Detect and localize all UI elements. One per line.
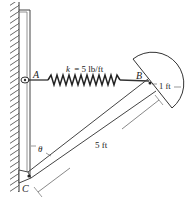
spring-k-value: = 5 lb/ft xyxy=(74,64,104,74)
spring-k-symbol: k xyxy=(66,64,71,74)
support-c xyxy=(19,170,31,183)
label-c: C xyxy=(22,183,29,194)
vertical-rod xyxy=(19,10,30,176)
label-1ft: 1 ft xyxy=(159,81,171,91)
pin-b xyxy=(149,82,152,85)
label-theta: θ xyxy=(38,144,43,154)
label-b: B xyxy=(136,70,142,81)
wall xyxy=(10,2,19,192)
collar-a xyxy=(21,77,29,83)
spring-rod-right xyxy=(120,80,149,81)
label-a: A xyxy=(32,69,40,80)
diagonal-rod xyxy=(28,79,156,178)
mechanism-diagram: A B C k = 5 lb/ft 1 ft 5 ft θ xyxy=(0,0,185,202)
spring xyxy=(48,75,120,85)
spring-constant-label: k = 5 lb/ft xyxy=(66,64,104,74)
label-5ft: 5 ft xyxy=(95,140,108,150)
